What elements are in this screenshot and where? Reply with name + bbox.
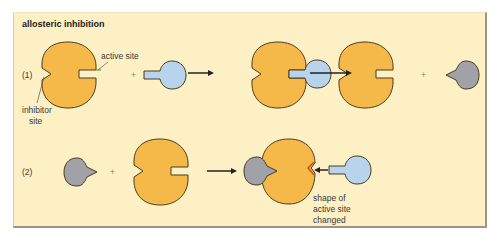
enzyme-shape (42, 42, 96, 108)
blocked-substrate (329, 156, 371, 184)
inhibitor-site-label-line2: site (29, 116, 42, 126)
plus-sign: + (421, 70, 426, 80)
substrate-shape (144, 61, 186, 89)
shape-changed-label-line1: shape of (313, 193, 346, 203)
diagram-title: allosteric inhibition (22, 19, 105, 29)
inhibitor-shape (64, 158, 97, 186)
plus-sign: + (131, 70, 136, 80)
inhibitor-site-label-line1: inhibitor (22, 105, 52, 115)
row-label-2: (2) (22, 167, 32, 177)
enzyme-shape (134, 139, 188, 205)
plus-sign: + (110, 167, 115, 177)
active-site-label: active site (101, 51, 139, 61)
shape-changed-label-line2: active site (313, 204, 351, 214)
row-label-1: (1) (22, 70, 32, 80)
inhibitor-shape (446, 61, 479, 89)
shape-changed-label-line3: changed (313, 215, 346, 225)
allosteric-inhibition-diagram (0, 0, 498, 241)
